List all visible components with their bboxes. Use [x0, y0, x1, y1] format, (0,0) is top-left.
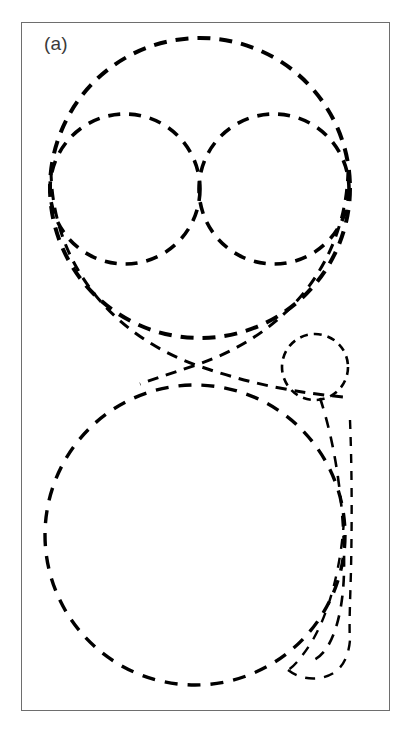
upper-crossing-arc-right [140, 170, 348, 384]
right-vertical-arc [350, 420, 352, 640]
outer-bottom-circle [45, 385, 345, 685]
small-right-circle [282, 334, 348, 400]
upper-crossing-arc-left [51, 170, 344, 397]
inner-top-right-circle [199, 114, 349, 264]
figure-root: (a) [0, 0, 410, 734]
panel-label: (a) [44, 33, 68, 55]
figure-drawing-canvas [0, 0, 410, 734]
inner-top-left-circle [50, 114, 200, 264]
